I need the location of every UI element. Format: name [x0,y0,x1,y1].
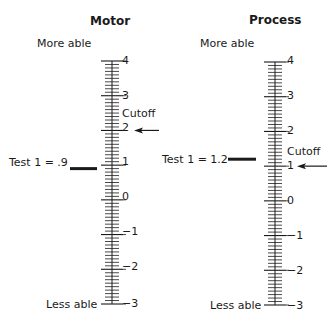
motor-tick-neg1: −1 [122,225,138,238]
motor-tick-neg3: −3 [122,297,138,310]
motor-tick-4: 4 [122,54,129,67]
motor-tick-1: 1 [122,155,129,168]
process-tick-neg1: −1 [287,229,303,242]
process-tick-0: 0 [287,194,294,207]
cutoff-arrow-icon [297,163,327,169]
motor-tick-0: 0 [122,190,129,203]
process-panel: Process More able 4 3 2 1 0 −1 −2 −3 Cut… [165,0,331,319]
motor-tick-2: 2 [122,121,129,134]
motor-tick-neg2: −2 [122,260,138,273]
motor-panel: Motor More able 4 3 2 1 0 −1 −2 −3 Cutof… [0,0,165,319]
process-measure-label: Test 1 = 1.2 [162,153,228,166]
motor-tick-3: 3 [122,89,129,102]
motor-measure-label: Test 1 = .9 [9,156,68,169]
process-less-able-label: Less able [210,299,261,312]
process-tick-2: 2 [287,124,294,137]
cutoff-arrow-icon [134,127,159,133]
process-tick-neg3: −3 [287,299,303,312]
process-tick-1: 1 [287,159,294,172]
process-cutoff-label: Cutoff [287,145,320,158]
process-tick-4: 4 [287,54,294,67]
motor-less-able-label: Less able [46,298,97,311]
motor-cutoff-label: Cutoff [122,107,155,120]
process-tick-3: 3 [287,89,294,102]
process-tick-neg2: −2 [287,264,303,277]
